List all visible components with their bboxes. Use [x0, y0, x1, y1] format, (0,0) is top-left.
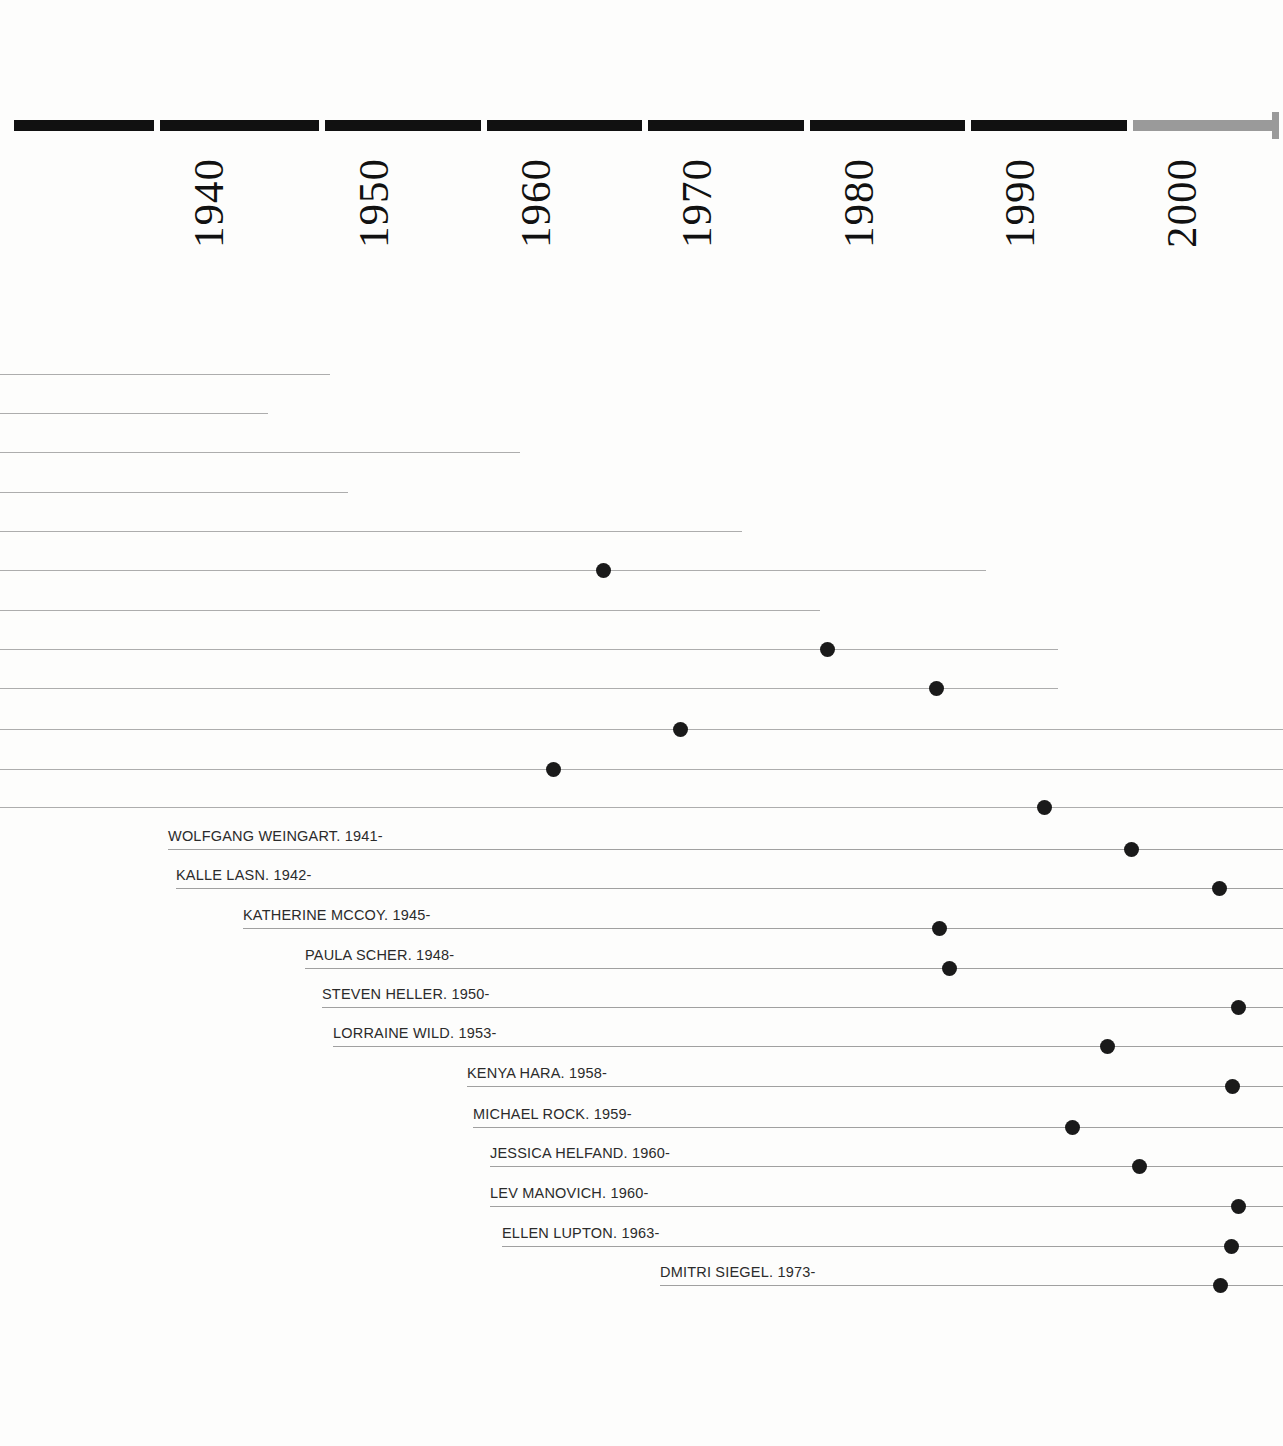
lifespan-line — [322, 1007, 1283, 1008]
person-label: STEVEN HELLER. 1950- — [322, 986, 490, 1002]
lifespan-line — [0, 807, 1283, 808]
lifespan-line — [0, 729, 1283, 730]
lifespan-line — [176, 888, 1283, 889]
birth-dot[interactable] — [1065, 1120, 1080, 1135]
person-label: LEV MANOVICH. 1960- — [490, 1185, 649, 1201]
birth-dot[interactable] — [1124, 842, 1139, 857]
person-label: KALLE LASN. 1942- — [176, 867, 312, 883]
lifespan-line — [0, 492, 348, 493]
lifespan-line — [660, 1285, 1283, 1286]
person-label: WOLFGANG WEINGART. 1941- — [168, 828, 383, 844]
person-label: KATHERINE MCCOY. 1945- — [243, 907, 431, 923]
lifespan-line — [0, 374, 330, 375]
lifespan-line — [0, 531, 742, 532]
birth-dot[interactable] — [1231, 1199, 1246, 1214]
lifespan-line — [305, 968, 1283, 969]
person-label: ELLEN LUPTON. 1963- — [502, 1225, 659, 1241]
lifespan-line — [473, 1127, 1283, 1128]
birth-dot[interactable] — [1213, 1278, 1228, 1293]
lifespan-line — [0, 649, 1058, 650]
lifespan-line — [333, 1046, 1283, 1047]
birth-dot[interactable] — [932, 921, 947, 936]
lifespan-line — [243, 928, 1283, 929]
lifespan-line — [168, 849, 1283, 850]
lifespan-line — [0, 769, 1283, 770]
timeline-rows: WOLFGANG WEINGART. 1941-KALLE LASN. 1942… — [0, 0, 1283, 1446]
timeline-page: 1940195019601970198019902000 WOLFGANG WE… — [0, 0, 1283, 1446]
lifespan-line — [502, 1246, 1283, 1247]
birth-dot[interactable] — [929, 681, 944, 696]
person-label: KENYA HARA. 1958- — [467, 1065, 607, 1081]
person-label: LORRAINE WILD. 1953- — [333, 1025, 497, 1041]
lifespan-line — [467, 1086, 1283, 1087]
lifespan-line — [0, 610, 820, 611]
lifespan-line — [490, 1166, 1283, 1167]
birth-dot[interactable] — [1225, 1079, 1240, 1094]
birth-dot[interactable] — [1132, 1159, 1147, 1174]
lifespan-line — [490, 1206, 1283, 1207]
person-label: MICHAEL ROCK. 1959- — [473, 1106, 632, 1122]
birth-dot[interactable] — [820, 642, 835, 657]
lifespan-line — [0, 452, 520, 453]
birth-dot[interactable] — [596, 563, 611, 578]
lifespan-line — [0, 688, 1058, 689]
birth-dot[interactable] — [1037, 800, 1052, 815]
birth-dot[interactable] — [1231, 1000, 1246, 1015]
person-label: DMITRI SIEGEL. 1973- — [660, 1264, 816, 1280]
lifespan-line — [0, 413, 268, 414]
person-label: JESSICA HELFAND. 1960- — [490, 1145, 670, 1161]
person-label: PAULA SCHER. 1948- — [305, 947, 454, 963]
birth-dot[interactable] — [546, 762, 561, 777]
birth-dot[interactable] — [1212, 881, 1227, 896]
birth-dot[interactable] — [1100, 1039, 1115, 1054]
birth-dot[interactable] — [942, 961, 957, 976]
birth-dot[interactable] — [1224, 1239, 1239, 1254]
birth-dot[interactable] — [673, 722, 688, 737]
lifespan-line — [0, 570, 986, 571]
